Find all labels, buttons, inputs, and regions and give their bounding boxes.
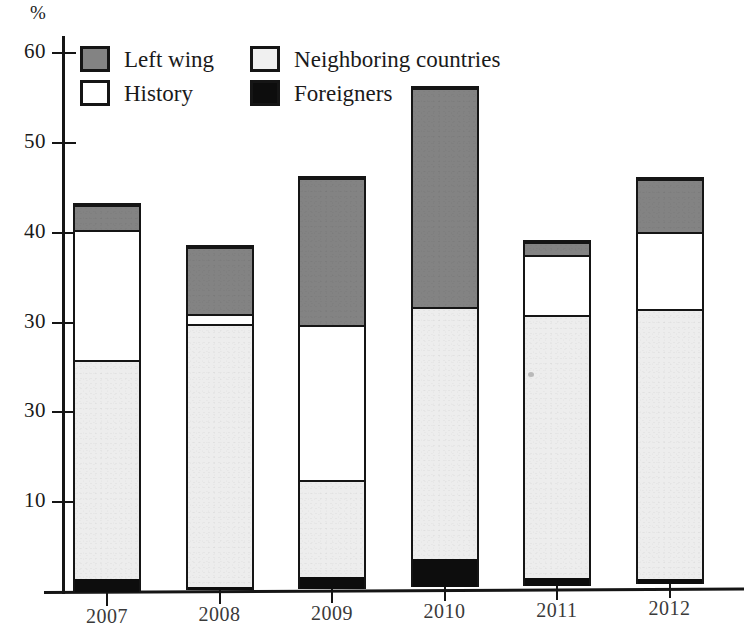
bar-2012	[636, 177, 704, 584]
x-axis-tick	[106, 592, 108, 606]
bar-segment-history	[638, 232, 702, 309]
x-axis-tick	[331, 589, 333, 603]
y-axis-tick-label: 50	[2, 131, 46, 152]
print-grain	[413, 90, 477, 307]
bar-segment-left-wing	[525, 242, 589, 255]
print-grain	[525, 244, 589, 255]
bar-segment-neighboring-countries	[525, 315, 589, 578]
stacked-bar-chart: % 605040303010 200720082009201020112012 …	[0, 0, 749, 630]
bar-segment-history	[75, 230, 139, 360]
print-grain	[188, 249, 252, 313]
x-axis-line	[44, 588, 744, 594]
scan-speck	[528, 372, 534, 377]
x-axis-tick-label: 2009	[287, 603, 377, 623]
x-axis-tick	[669, 584, 671, 598]
bar-segment-foreigners	[300, 577, 364, 589]
x-axis-tick	[556, 586, 558, 600]
print-grain	[638, 181, 702, 232]
bar-segment-history	[525, 255, 589, 315]
bar-segment-neighboring-countries	[188, 324, 252, 587]
y-axis-tick-label: 10	[2, 490, 46, 511]
y-axis-tick-label: 30	[2, 400, 46, 421]
bar-segment-neighboring-countries	[638, 309, 702, 579]
print-grain	[638, 311, 702, 579]
print-grain	[188, 326, 252, 587]
x-axis-tick-label: 2011	[512, 600, 602, 620]
print-grain	[413, 309, 477, 558]
bar-segment-left-wing	[300, 178, 364, 326]
y-axis-tick-label: 30	[2, 311, 46, 332]
bar-segment-left-wing	[413, 88, 477, 307]
bar-segment-foreigners	[525, 578, 589, 585]
bar-segment-neighboring-countries	[413, 307, 477, 558]
bar-segment-foreigners	[75, 579, 139, 592]
bar-2010	[411, 86, 479, 587]
bar-segment-left-wing	[638, 179, 702, 232]
print-grain	[75, 207, 139, 230]
print-grain	[300, 482, 364, 577]
bar-2007	[73, 203, 141, 592]
y-axis-line	[62, 36, 65, 594]
legend-swatch-foreigners	[250, 80, 280, 106]
bar-segment-neighboring-countries	[300, 480, 364, 577]
y-axis-tick-label: 40	[2, 221, 46, 242]
print-grain	[300, 180, 364, 326]
x-axis-tick-label: 2012	[625, 598, 715, 618]
bar-segment-history	[188, 314, 252, 325]
y-axis-tick-label: 60	[2, 41, 46, 62]
y-axis-unit-label: %	[30, 2, 46, 24]
bar-segment-foreigners	[638, 579, 702, 584]
legend-swatch-history	[80, 80, 110, 106]
legend-label-foreigners: Foreigners	[294, 82, 522, 105]
bar-segment-neighboring-countries	[75, 360, 139, 579]
bar-segment-left-wing	[75, 205, 139, 230]
x-axis-tick-label: 2010	[400, 601, 490, 621]
y-axis-tick	[52, 142, 76, 144]
bar-segment-foreigners	[413, 559, 477, 588]
x-axis-tick-label: 2007	[62, 606, 152, 626]
bar-2008	[186, 245, 254, 590]
x-axis-tick	[219, 590, 221, 604]
legend-label-neighboring-countries: Neighboring countries	[294, 48, 522, 71]
bar-2009	[298, 176, 366, 589]
bar-segment-left-wing	[188, 247, 252, 313]
chart-legend: Left wing Neighboring countries History …	[80, 46, 522, 106]
bar-2011	[523, 240, 591, 586]
legend-label-history: History	[124, 82, 236, 105]
legend-swatch-left-wing	[80, 46, 110, 72]
y-axis-tick	[52, 52, 76, 54]
legend-swatch-neighboring-countries	[250, 46, 280, 72]
bar-segment-foreigners	[188, 587, 252, 591]
x-axis-tick-label: 2008	[175, 604, 265, 624]
x-axis-tick	[444, 587, 446, 601]
print-grain	[75, 362, 139, 579]
legend-label-left-wing: Left wing	[124, 48, 236, 71]
bar-segment-history	[300, 325, 364, 480]
print-grain	[525, 317, 589, 578]
